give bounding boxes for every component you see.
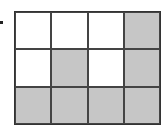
grid-cell-r1-c1-shaded	[51, 49, 87, 86]
grid-cell-r0-c1-unshaded	[51, 12, 87, 49]
grid-cell-r1-c2-unshaded	[88, 49, 124, 86]
grid-cell-r2-c2-shaded	[88, 87, 124, 124]
grid-cell-r2-c1-shaded	[51, 87, 87, 124]
bullet-marker	[0, 21, 3, 24]
grid-cell-r0-c0-unshaded	[15, 12, 51, 49]
grid-cell-r2-c0-shaded	[15, 87, 51, 124]
grid-cell-r0-c3-shaded	[124, 12, 160, 49]
grid-cell-r1-c0-unshaded	[15, 49, 51, 86]
grid-cell-r0-c2-unshaded	[88, 12, 124, 49]
grid-cell-r1-c3-shaded	[124, 49, 160, 86]
grid-cell-r2-c3-shaded	[124, 87, 160, 124]
shaded-grid-diagram	[14, 11, 161, 125]
